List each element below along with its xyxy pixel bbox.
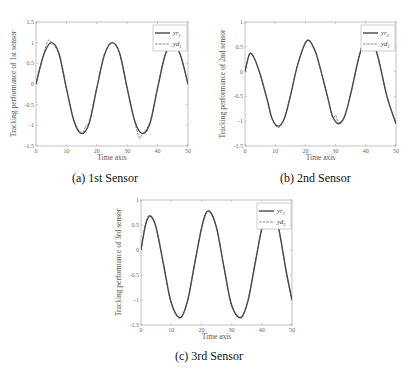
y-tick-label: -0.5 bbox=[130, 272, 140, 278]
x-tick-label: 0 bbox=[140, 327, 143, 333]
y-axis-label: Tracking performance of 3rd sensor bbox=[114, 208, 123, 316]
legend: yr3yd3 bbox=[257, 203, 291, 229]
x-tick-label: 50 bbox=[289, 327, 295, 333]
y-tick-label: -1 bbox=[134, 297, 139, 303]
caption-3rd-sensor: (c) 3rd Sensor bbox=[175, 349, 243, 364]
y-tick-label: -1.5 bbox=[130, 322, 140, 328]
chart-panel-3rd-sensor: 01020304050-1.5-1-0.500.51Time axisTrack… bbox=[0, 0, 417, 375]
x-tick-label: 10 bbox=[168, 327, 174, 333]
y-tick-label: 0 bbox=[136, 247, 139, 253]
chart-3rd-sensor: 01020304050-1.5-1-0.500.51Time axisTrack… bbox=[0, 0, 417, 375]
y-tick-label: 0.5 bbox=[132, 222, 140, 228]
x-axis-label: Time axis bbox=[202, 332, 232, 341]
x-tick-label: 40 bbox=[259, 327, 265, 333]
y-tick-label: 1 bbox=[136, 197, 139, 203]
